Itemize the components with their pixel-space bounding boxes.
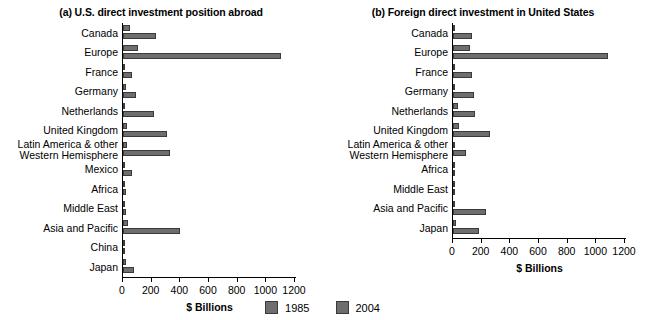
panel-b: (b) Foreign direct investment in United …: [322, 0, 644, 313]
bar-group: [123, 199, 297, 219]
panel-a-plot-wrap: CanadaEuropeFranceGermanyNetherlandsUnit…: [0, 23, 322, 313]
bar-2004: [453, 150, 466, 156]
bar-1985: [123, 45, 138, 51]
x-axis-tick: [151, 278, 152, 282]
category-label-line: Middle East: [63, 203, 118, 214]
bar-1985: [123, 259, 126, 265]
bar-1985: [453, 64, 455, 70]
x-axis-tick: [538, 239, 539, 243]
bar-group: [453, 199, 627, 219]
panel-a-category-labels: CanadaEuropeFranceGermanyNetherlandsUnit…: [0, 23, 122, 313]
bar-1985: [453, 142, 455, 148]
bar-2004: [453, 228, 479, 234]
bar-2004: [123, 209, 126, 215]
bar-2004: [123, 248, 125, 254]
bar-group: [123, 140, 297, 160]
category-label-line: Asia and Pacific: [373, 203, 448, 214]
bar-2004: [123, 92, 136, 98]
category-label: France: [0, 62, 118, 82]
legend: 19852004: [0, 301, 645, 314]
bar-2004: [123, 53, 281, 59]
category-label: Latin America & otherWestern Hemisphere: [0, 140, 118, 160]
legend-item: 2004: [336, 301, 380, 314]
panel-b-axis-title: $ Billions: [452, 262, 627, 274]
panel-b-plot: 020040060080010001200 $ Billions: [452, 23, 627, 274]
panel-b-plot-wrap: CanadaEuropeFranceGermanyNetherlandsUnit…: [322, 23, 644, 274]
x-axis-tick: [122, 278, 123, 282]
category-label-line: Asia and Pacific: [43, 223, 118, 234]
bar-group: [453, 179, 627, 199]
category-label-line: Africa: [91, 184, 118, 195]
x-axis-tick: [481, 239, 482, 243]
category-label: Japan: [322, 218, 448, 238]
category-label-line: Germany: [75, 86, 118, 97]
bar-1985: [453, 45, 470, 51]
panel-b-category-labels: CanadaEuropeFranceGermanyNetherlandsUnit…: [322, 23, 452, 274]
x-axis-tick-label: 1000: [584, 245, 607, 257]
bar-group: [123, 160, 297, 180]
bar-group: [123, 121, 297, 141]
x-axis-tick-label: 800: [228, 284, 246, 296]
bar-group: [453, 82, 627, 102]
panel-a: (a) U.S. direct investment position abro…: [0, 0, 322, 313]
bar-group: [123, 62, 297, 82]
x-axis-tick-label: 800: [558, 245, 576, 257]
category-label: Germany: [0, 82, 118, 102]
bar-1985: [453, 84, 455, 90]
bar-group: [123, 101, 297, 121]
x-axis-tick: [452, 239, 453, 243]
bar-1985: [453, 220, 456, 226]
figure-root: (a) U.S. direct investment position abro…: [0, 0, 645, 320]
x-axis-tick: [208, 278, 209, 282]
x-axis-tick-label: 400: [171, 284, 189, 296]
category-label: Asia and Pacific: [0, 218, 118, 238]
x-axis-tick-label: 200: [142, 284, 160, 296]
bar-2004: [453, 189, 455, 195]
category-label-line: Western Hemisphere: [350, 150, 448, 161]
bar-1985: [123, 103, 125, 109]
category-label-line: Canada: [411, 28, 448, 39]
bar-group: [453, 23, 627, 43]
bar-1985: [453, 201, 455, 207]
bar-1985: [123, 64, 125, 70]
category-label-line: Japan: [89, 262, 118, 273]
x-axis-tick: [265, 278, 266, 282]
legend-item: 1985: [265, 301, 309, 314]
category-label: Middle East: [0, 199, 118, 219]
bar-group: [123, 238, 297, 258]
x-axis-tick: [509, 239, 510, 243]
bar-2004: [453, 33, 472, 39]
panels-container: (a) U.S. direct investment position abro…: [0, 0, 645, 313]
panel-b-title: (b) Foreign direct investment in United …: [322, 6, 644, 18]
bar-1985: [453, 123, 459, 129]
category-label: United Kingdom: [322, 121, 448, 141]
category-label: Canada: [0, 23, 118, 43]
category-label-line: Western Hemisphere: [20, 150, 118, 161]
category-label-line: Netherlands: [61, 106, 118, 117]
x-axis-tick-label: 1200: [282, 284, 305, 296]
x-axis-tick-label: 1200: [612, 245, 635, 257]
category-label: China: [0, 238, 118, 258]
bar-1985: [123, 84, 126, 90]
bar-1985: [453, 25, 455, 31]
category-label-line: Africa: [421, 164, 448, 175]
bar-1985: [123, 240, 125, 246]
category-label-line: Europe: [84, 47, 118, 58]
category-label: Japan: [0, 257, 118, 277]
bar-1985: [453, 103, 458, 109]
panel-a-title: (a) U.S. direct investment position abro…: [0, 6, 322, 18]
bar-2004: [123, 150, 170, 156]
category-label: Germany: [322, 82, 448, 102]
category-label-line: Netherlands: [391, 106, 448, 117]
bar-2004: [453, 53, 608, 59]
category-label: Asia and Pacific: [322, 199, 448, 219]
x-axis-tick-label: 0: [119, 284, 125, 296]
legend-swatch-icon: [265, 301, 278, 314]
bar-1985: [123, 181, 125, 187]
legend-label: 2004: [356, 302, 380, 314]
x-axis-tick: [237, 278, 238, 282]
bar-group: [453, 43, 627, 63]
bar-1985: [123, 220, 128, 226]
bar-2004: [453, 131, 490, 137]
bar-group: [453, 160, 627, 180]
